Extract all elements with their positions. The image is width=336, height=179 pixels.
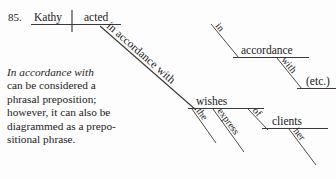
explanatory-note: In accordance with can be considered a p… [7,66,125,146]
subject-word: Kathy [34,11,62,24]
note-line-1: In accordance with [7,66,125,79]
note-line-6: sitional phrase. [7,133,125,146]
sentence-diagram-figure: 85. Kathy acted in accordance with wishe… [0,0,336,179]
item-number: 85. [8,11,22,23]
alt-second-object-word: (etc.) [306,75,330,88]
prep-object-word: clients [272,115,303,127]
note-line-4: however, it can also be [7,106,125,119]
alt-preposition-word: in [213,20,226,33]
note-line-5: diagrammed as a prepo- [7,120,125,133]
object-word: wishes [196,95,228,107]
note-line-3: phrasal preposition; [7,93,125,106]
adjective-word: express [215,106,242,137]
verb-word: acted [84,11,109,23]
preposition-of-word: of [251,105,265,119]
note-line-2: can be considered a [7,79,125,92]
alt-prep-object-word: accordance [241,44,293,56]
